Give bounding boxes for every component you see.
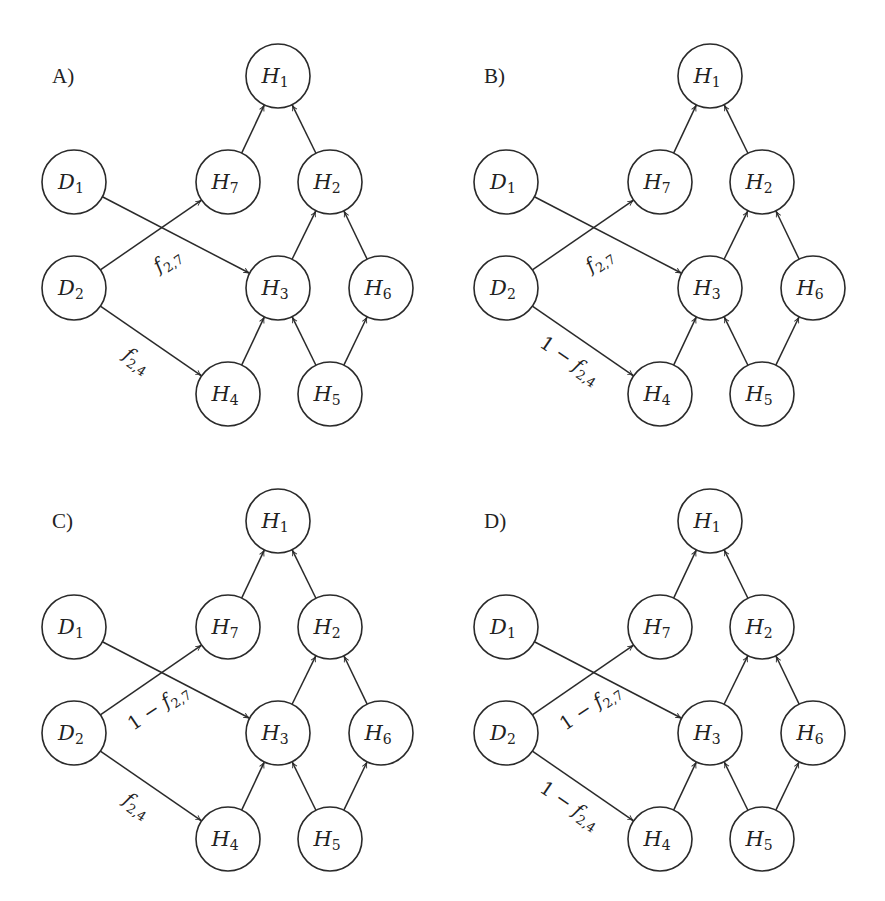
edge-h2-to-h1 [724,105,748,153]
node-h7: H7 [196,150,260,214]
edge-h4-to-h3 [242,317,264,365]
edge-label-d2-h7: f2,7 [579,242,618,280]
node-d1: D1 [42,150,106,214]
node-h1: H1 [678,44,742,108]
node-h3: H3 [246,701,310,765]
edge-label-d2-h7: 1 − f2,7 [555,678,626,737]
edge-label-d2-h4: 1 − f2,4 [534,776,605,835]
edge-h5-to-h3 [292,317,316,365]
edge-h2-to-h1 [724,550,748,598]
edge-h5-to-h3 [292,762,316,810]
node-h4: H4 [196,807,260,871]
node-h3: H3 [678,701,742,765]
panel-label: A) [52,64,74,88]
node-h1: H1 [246,489,310,553]
edge-label-d2-h4: f2,4 [116,786,155,824]
edge-h5-to-h6 [344,762,367,810]
node-d2: D2 [42,701,106,765]
edge-h6-to-h2 [776,211,799,259]
node-h5: H5 [298,362,362,426]
node-h2: H2 [730,595,794,659]
edge-h7-to-h1 [674,550,696,598]
edge-label-d2-h4: f2,4 [116,341,155,379]
edge-h7-to-h1 [674,105,696,153]
node-h7: H7 [196,595,260,659]
edge-h3-to-h2 [292,656,316,704]
edge-h6-to-h2 [776,656,799,704]
panel-label: B) [484,64,505,88]
node-d1: D1 [42,595,106,659]
node-h2: H2 [298,595,362,659]
node-h6: H6 [349,701,413,765]
panel-c: C)1 − f2,7f2,4H1D1H7H2D2H3H6H4H5 [42,489,413,871]
node-h7: H7 [628,595,692,659]
edge-h3-to-h2 [724,656,748,704]
edge-label-d2-h4: 1 − f2,4 [534,331,605,390]
node-h4: H4 [628,362,692,426]
edge-h7-to-h1 [242,105,264,153]
edge-h4-to-h3 [242,762,264,810]
node-d1: D1 [474,150,538,214]
edge-h5-to-h3 [724,317,748,365]
edge-h3-to-h2 [292,211,316,259]
edge-d2-to-h4 [100,306,201,375]
edge-h5-to-h3 [724,762,748,810]
node-h6: H6 [349,256,413,320]
node-h4: H4 [628,807,692,871]
node-h6: H6 [781,701,845,765]
edge-h6-to-h2 [344,656,367,704]
edge-label-d2-h7: 1 − f2,7 [123,678,194,737]
edge-h3-to-h2 [724,211,748,259]
node-h5: H5 [730,807,794,871]
panel-b: B)f2,71 − f2,4H1D1H7H2D2H3H6H4H5 [474,44,845,426]
panel-label: C) [52,509,73,533]
node-h3: H3 [678,256,742,320]
panel-label: D) [484,509,506,533]
node-d2: D2 [474,701,538,765]
node-h2: H2 [730,150,794,214]
node-d2: D2 [42,256,106,320]
diagram-canvas: A)f2,7f2,4H1D1H7H2D2H3H6H4H5B)f2,71 − f2… [0,0,885,901]
edge-h5-to-h6 [344,317,367,365]
edge-h5-to-h6 [776,762,799,810]
node-h4: H4 [196,362,260,426]
node-h1: H1 [246,44,310,108]
node-h5: H5 [730,362,794,426]
edge-h7-to-h1 [242,550,264,598]
edge-h2-to-h1 [292,550,316,598]
edge-d2-to-h4 [100,751,201,820]
edge-h6-to-h2 [344,211,367,259]
panel-d: D)1 − f2,71 − f2,4H1D1H7H2D2H3H6H4H5 [474,489,845,871]
edge-label-d2-h7: f2,7 [147,242,186,280]
edge-h4-to-h3 [674,317,696,365]
panel-a: A)f2,7f2,4H1D1H7H2D2H3H6H4H5 [42,44,413,426]
node-h2: H2 [298,150,362,214]
node-h3: H3 [246,256,310,320]
node-d2: D2 [474,256,538,320]
node-d1: D1 [474,595,538,659]
node-h5: H5 [298,807,362,871]
node-h7: H7 [628,150,692,214]
node-h1: H1 [678,489,742,553]
edge-h4-to-h3 [674,762,696,810]
node-h6: H6 [781,256,845,320]
edge-h5-to-h6 [776,317,799,365]
edge-h2-to-h1 [292,105,316,153]
